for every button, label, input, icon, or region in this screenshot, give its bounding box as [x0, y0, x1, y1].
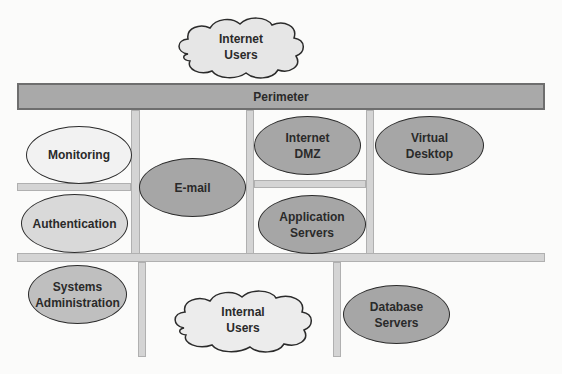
zone-monitoring: Monitoring: [26, 126, 132, 184]
zone-virtual-desktop: Virtual Desktop: [375, 116, 484, 175]
zone-internet-dmz: Internet DMZ: [254, 116, 361, 175]
internal-users-label: Internal Users: [170, 286, 316, 354]
zone-systems-administration: Systems Administration: [28, 265, 127, 324]
vertical-connector: [246, 110, 254, 254]
internal-users-cloud: Internal Users: [170, 286, 316, 354]
internal-backbone-connector: [17, 253, 545, 262]
zone-e-mail: E-mail: [139, 158, 246, 217]
zone-authentication: Authentication: [21, 194, 128, 253]
horizontal-connector: [254, 180, 366, 188]
vertical-connector: [138, 262, 146, 357]
zone-application-servers: Application Servers: [258, 195, 366, 254]
internet-users-cloud: Internet Users: [174, 14, 308, 80]
internet-users-label: Internet Users: [174, 14, 308, 80]
horizontal-connector: [17, 183, 131, 191]
perimeter-bar: Perimeter: [17, 83, 545, 110]
vertical-connector: [366, 110, 374, 254]
network-zone-diagram: Internet Users Perimeter Monitoring Auth…: [0, 0, 562, 374]
zone-database-servers: Database Servers: [343, 285, 450, 344]
vertical-connector: [333, 262, 341, 357]
perimeter-label: Perimeter: [253, 90, 308, 104]
